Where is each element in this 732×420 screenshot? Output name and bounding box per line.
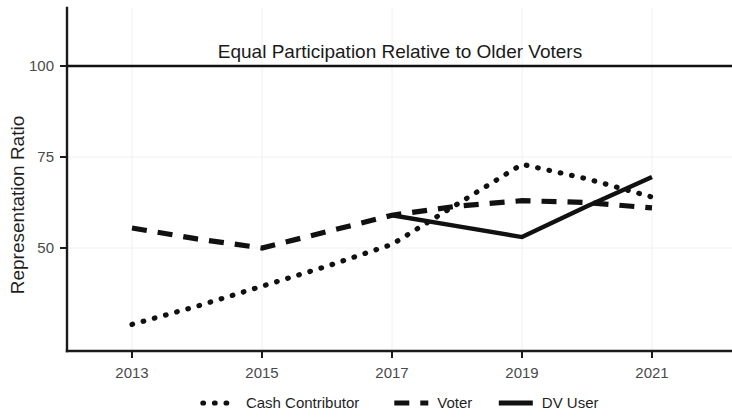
x-tick-label: 2021 (635, 364, 668, 381)
y-axis-title: Representation Ratio (7, 116, 28, 295)
y-tick-label: 100 (29, 57, 54, 74)
representation-ratio-line-chart: Equal Participation Relative to Older Vo… (0, 0, 732, 420)
chart-legend: Cash ContributorVoterDV User (203, 394, 599, 411)
y-tick-label: 50 (37, 239, 54, 256)
legend-label-cash-contributor: Cash Contributor (246, 394, 359, 411)
x-tick-label: 2015 (245, 364, 278, 381)
x-tick-label: 2019 (505, 364, 538, 381)
chart-container: Equal Participation Relative to Older Vo… (0, 0, 732, 420)
y-tick-label: 75 (37, 148, 54, 165)
x-axis-ticks: 20132015201720192021 (115, 351, 668, 381)
legend-label-voter: Voter (437, 394, 472, 411)
y-axis-ticks: 5075100 (29, 57, 67, 256)
x-tick-label: 2017 (375, 364, 408, 381)
x-tick-label: 2013 (115, 364, 148, 381)
chart-annotation-label: Equal Participation Relative to Older Vo… (218, 41, 582, 62)
legend-label-dv-user: DV User (542, 394, 599, 411)
